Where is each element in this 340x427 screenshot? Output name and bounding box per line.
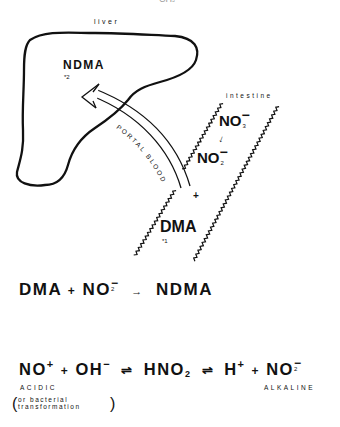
- eq2-equilibrium-1: ⇌: [121, 363, 134, 378]
- ch3-sub: 3: [172, 0, 175, 3]
- eq2-oh-charge: −: [103, 358, 111, 370]
- intestine-note: *1: [162, 238, 168, 244]
- eq2-no2-charges: −2: [294, 363, 302, 375]
- equation-nitrous-acid-equilibrium: NO+ + OH− ⇌ HNO2 ⇌ H+ + NO−2: [19, 358, 302, 379]
- eq1-dma: DMA: [19, 280, 62, 299]
- alkaline-label: ALKALINE: [264, 384, 315, 391]
- eq1-no-charges: −2: [111, 283, 119, 295]
- eq2-hno2-base: HNO: [144, 360, 185, 378]
- eq2-no-plus-charge: +: [47, 358, 55, 370]
- liver-note: *2: [64, 74, 70, 80]
- eq2-hno2-sub: 2: [185, 369, 192, 379]
- note-paren-left: (: [12, 396, 19, 412]
- eq2-plus-1: +: [61, 364, 70, 378]
- intestine-dma: DMA: [160, 218, 196, 236]
- nitrite-base: NO: [197, 149, 220, 166]
- note-line-1: or bacterial: [18, 396, 81, 403]
- nitrate-ion: NO−3: [219, 112, 250, 129]
- eq1-ndma: NDMA: [156, 280, 213, 299]
- note-line-2: transformation: [18, 403, 81, 410]
- eq2-h-charge: +: [238, 358, 246, 370]
- nitrite-charges: −2: [220, 149, 228, 164]
- nitrite-charge: −: [220, 144, 228, 160]
- ch3-text: CH: [159, 0, 172, 4]
- eq1-no-sub: 2: [111, 286, 116, 292]
- nitrite-sub: 2: [221, 160, 224, 166]
- nitrate-sub: 3: [243, 123, 246, 129]
- intestine-label: intestine: [226, 92, 273, 99]
- eq2-no-plus-base: NO: [19, 360, 47, 378]
- nitrite-ion: NO−2: [197, 149, 228, 166]
- nitrate-base: NO: [219, 112, 242, 129]
- nitrate-charge: −: [242, 107, 250, 123]
- intestine-wall-right: [194, 107, 279, 262]
- eq2-plus-2: +: [252, 364, 261, 378]
- acidic-label: ACIDIC: [20, 384, 57, 391]
- eq2-equilibrium-2: ⇌: [202, 363, 215, 378]
- portal-blood-arrow: [82, 84, 190, 188]
- liver-label: liver: [94, 18, 119, 25]
- eq2-h-base: H: [224, 360, 237, 378]
- ch3-fragment: CH3: [159, 0, 175, 4]
- liver-ndma: NDMA: [63, 58, 105, 72]
- eq2-oh-base: OH: [75, 360, 103, 378]
- bacterial-note: ( or bacterial transformation ): [12, 396, 81, 410]
- note-paren-right: ): [110, 396, 117, 412]
- eq1-plus: +: [68, 284, 77, 298]
- eq2-no2-sub: 2: [294, 366, 299, 372]
- eq1-no-base: NO: [83, 280, 112, 299]
- nitrate-charges: −3: [242, 112, 250, 127]
- eq1-arrow: →: [131, 285, 144, 297]
- eq2-no2-base: NO: [266, 360, 294, 378]
- equation-nitrosation: DMA + NO−2 → NDMA: [19, 280, 213, 300]
- plus-sign: +: [193, 190, 199, 201]
